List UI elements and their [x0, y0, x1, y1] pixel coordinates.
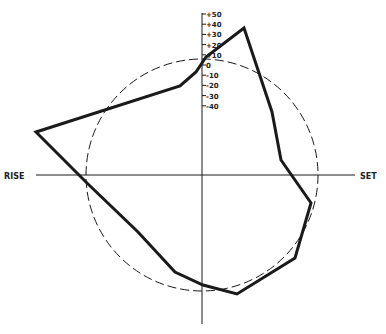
rise-label: RISE — [4, 172, 24, 181]
scale-tick-label: +40 — [206, 21, 222, 29]
scale-tick-label: 0 — [206, 62, 211, 70]
polar-diagram: +50+40+30+20+100-10-20-30-40 RISE SET — [0, 0, 386, 334]
scale-tick-label: -30 — [206, 93, 219, 101]
set-label: SET — [360, 172, 377, 181]
scale-tick-label: -10 — [206, 72, 219, 80]
scale-tick-label: -20 — [206, 82, 219, 90]
scale-tick-label: +50 — [206, 11, 222, 19]
scale-tick-label: -40 — [206, 103, 219, 111]
scale-tick-label: +30 — [206, 31, 222, 39]
profile-polygon — [36, 28, 311, 294]
